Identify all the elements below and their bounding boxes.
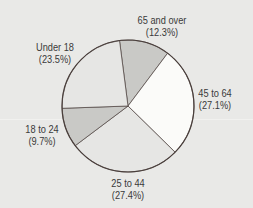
slice-label-name: 25 to 44 <box>102 177 155 189</box>
slice-label-percent: (12.3%) <box>136 26 189 38</box>
slice-label-percent: (23.5%) <box>29 53 82 65</box>
slice-label-45-to-64: 45 to 64 (27.1%) <box>189 87 242 111</box>
slice-label-under-18: Under 18 (23.5%) <box>29 41 82 65</box>
slice-label-name: 45 to 64 <box>189 87 242 99</box>
slice-label-name: Under 18 <box>29 41 82 53</box>
slice-label-percent: (27.4%) <box>102 189 155 201</box>
slice-label-25-to-44: 25 to 44 (27.4%) <box>102 177 155 201</box>
slice-label-percent: (27.1%) <box>189 99 242 111</box>
slice-label-name: 18 to 24 <box>16 123 69 135</box>
slice-label-name: 65 and over <box>136 14 189 26</box>
slice-label-65-and-over: 65 and over (12.3%) <box>136 14 189 38</box>
slice-label-percent: (9.7%) <box>16 135 69 147</box>
pie-slices <box>62 40 194 172</box>
slice-label-18-to-24: 18 to 24 (9.7%) <box>16 123 69 147</box>
